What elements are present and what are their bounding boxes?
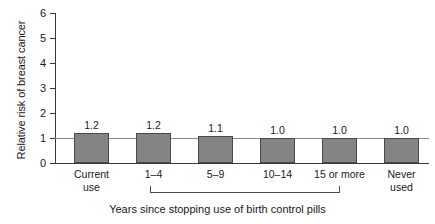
y-axis-tick-label: 6 <box>30 8 46 19</box>
y-axis-tick <box>50 113 55 114</box>
bar <box>198 136 233 164</box>
y-axis-tick <box>50 163 55 164</box>
y-axis-tick-label: 1 <box>30 133 46 144</box>
bar-value-label: 1.1 <box>188 123 243 134</box>
bar <box>136 133 171 163</box>
y-axis-tick-label: 4 <box>30 58 46 69</box>
bar <box>322 138 357 163</box>
x-axis-line <box>55 163 429 164</box>
bar <box>384 138 419 163</box>
bar-value-label: 1.0 <box>250 125 305 136</box>
y-axis-line <box>55 13 56 164</box>
y-axis-tick-label: 0 <box>30 158 46 169</box>
y-axis-tick-label: 5 <box>30 33 46 44</box>
bar <box>74 133 109 163</box>
y-axis-tick <box>50 88 55 89</box>
bar-value-label: 1.0 <box>374 125 429 136</box>
bar-value-label: 1.2 <box>64 120 119 131</box>
y-axis-tick-label: 3 <box>30 83 46 94</box>
y-axis-tick-label: 2 <box>30 108 46 119</box>
y-axis-tick <box>50 38 55 39</box>
x-axis-title: Years since stopping use of birth contro… <box>0 203 435 215</box>
bar-value-label: 1.2 <box>126 120 181 131</box>
y-axis-tick <box>50 13 55 14</box>
y-axis-title: Relative risk of breast cancer <box>15 5 27 175</box>
bar-chart: Relative risk of breast cancer 0123456 1… <box>0 0 435 224</box>
bar <box>260 138 295 163</box>
bar-value-label: 1.0 <box>312 125 367 136</box>
y-axis-tick <box>50 63 55 64</box>
x-axis-category-label: Neverused <box>362 168 435 193</box>
category-group-bracket <box>150 186 340 193</box>
reference-line-at-one <box>55 138 429 139</box>
